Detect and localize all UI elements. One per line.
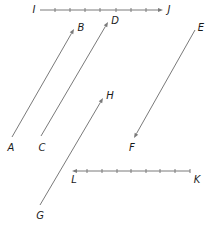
vector-line	[40, 102, 100, 205]
label-C: C	[39, 143, 46, 153]
vector-diagram	[0, 0, 209, 226]
label-E: E	[198, 23, 204, 33]
arrowhead-icon	[104, 22, 108, 27]
arrowhead-icon	[99, 98, 103, 103]
label-H: H	[106, 91, 114, 101]
label-I: I	[33, 5, 36, 15]
label-J: J	[168, 5, 171, 15]
label-K: K	[194, 175, 201, 185]
label-G: G	[36, 211, 44, 221]
vector-line	[12, 33, 72, 137]
vector-kl	[72, 169, 190, 173]
vector-cd	[41, 22, 108, 136]
label-D: D	[111, 16, 119, 26]
vector-line	[41, 26, 105, 136]
vector-ab	[12, 29, 74, 137]
label-B: B	[78, 23, 85, 33]
arrowhead-icon	[158, 8, 163, 12]
label-L: L	[71, 175, 77, 185]
label-A: A	[8, 143, 15, 153]
vector-gh	[40, 98, 103, 205]
vector-ij	[40, 8, 163, 12]
arrowhead-icon	[72, 169, 77, 173]
vector-line	[136, 30, 195, 134]
arrowhead-icon	[134, 133, 138, 138]
label-F: F	[129, 143, 135, 153]
vector-ef	[134, 30, 195, 138]
arrowhead-icon	[70, 29, 74, 34]
